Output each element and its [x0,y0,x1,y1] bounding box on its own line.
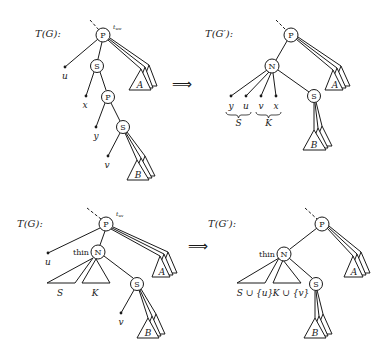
leaf-x [85,95,88,98]
svg-text:u: u [62,71,68,81]
brace-label-K: K [264,118,273,128]
subtree-label-A: A [331,80,339,90]
svg-text:N: N [95,248,102,257]
leaf-v [107,155,110,158]
svg-text:v: v [104,160,109,170]
subtree-label-A: A [350,267,358,277]
svg-text:P: P [105,93,111,102]
parent-edge-dashed [305,208,317,219]
edge-label-t-uv: tuv [116,210,124,218]
subtree-label-S: S [57,288,63,298]
panel-top-right: T(G′): A B P N S y u [205,20,350,150]
thin-annotation: thin [73,248,89,257]
subtree-label-B: B [144,328,152,338]
subtree-label-S-union-u: S ∪ {u} [237,288,274,298]
parent-edge-dashed [90,20,99,30]
svg-text:S: S [313,280,318,289]
svg-text:P: P [288,31,294,40]
svg-text:P: P [100,31,106,40]
leaf-y [95,126,98,129]
parent-edge-dashed [87,208,101,219]
svg-text:x: x [82,100,87,110]
implies-arrow: ⟹ [172,76,192,92]
leaf-u [64,66,67,69]
subtree-label-B: B [310,140,318,150]
panel-title: T(G): [17,218,43,229]
svg-text:S: S [134,280,139,289]
svg-text:y: y [227,101,234,111]
leaf-u [47,252,50,255]
svg-text:P: P [319,220,325,229]
svg-text:x: x [273,101,278,111]
leaf-u [245,95,248,98]
svg-text:S: S [120,123,125,132]
parent-edge-dashed [276,20,286,30]
subtree-label-A: A [136,80,144,90]
implies-arrow: ⟹ [188,238,208,254]
edge-label-t-uw: tuw [113,23,122,31]
brace-label-S: S [235,118,241,128]
panel-bottom-right: T(G′): S ∪ {u} K ∪ {v} A B P N thin S [208,208,370,338]
leaf-x [275,95,278,98]
svg-text:u: u [243,101,249,111]
svg-text:S: S [94,62,99,71]
subtree-label-K: K [91,288,100,298]
panel-bottom-left: T(G): tuv S K A B P N thin S [17,208,177,338]
subtree-S-union-u [237,258,279,283]
leaf-v [260,95,263,98]
panel-top-left: T(G): tuw A B P S P S [35,20,157,180]
subtree-label-B: B [134,170,142,180]
svg-text:P: P [103,220,109,229]
svg-text:N: N [281,250,288,259]
subtree-label-K-union-v: K ∪ {v} [272,288,310,298]
tree-transformation-diagram: T(G): tuw A B P S P S [0,0,392,360]
svg-text:u: u [45,257,51,267]
panel-title: T(G′): [205,28,233,39]
panel-title: T(G): [35,28,61,39]
svg-text:y: y [92,131,99,141]
subtree-K-union-v [273,260,301,283]
panel-title: T(G′): [208,218,236,229]
subtree-label-A: A [158,267,166,277]
thin-annotation: thin [259,250,275,259]
svg-text:v: v [258,101,263,111]
leaf-v [120,312,123,315]
leaf-y [230,95,233,98]
subtree-label-B: B [311,328,319,338]
svg-text:N: N [269,62,276,71]
svg-text:v: v [118,317,123,327]
svg-text:S: S [311,92,316,101]
